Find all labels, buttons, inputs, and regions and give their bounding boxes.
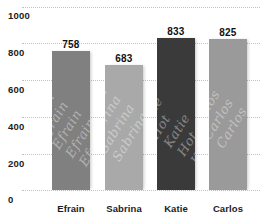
gridline-1000 — [22, 7, 260, 8]
xtick-label-carlos: Carlos — [196, 203, 260, 214]
bar-value-sabrina: 683 — [101, 53, 147, 64]
bar-watermark-katie: Katie Hot Katie Hot Katie Hot Katie Hot … — [157, 38, 195, 190]
bar-efrain[interactable]: Efrain Efrain Efrain Efrain Efrain Efrai… — [52, 51, 90, 190]
ytick-label-600: 600 — [8, 84, 44, 95]
ytick-label-400: 400 — [8, 121, 44, 132]
ytick-label-800: 800 — [8, 47, 44, 58]
gridline-0 — [22, 190, 260, 191]
bar-watermark-carlos: Carlos Carlos Carlos Carlos Carlos Carlo… — [209, 39, 247, 190]
bar-carlos[interactable]: Carlos Carlos Carlos Carlos Carlos Carlo… — [209, 39, 247, 190]
plot-area: 1000 800 600 400 200 0 Efrain Efrain Efr… — [0, 0, 265, 224]
bar-sabrina[interactable]: Sabrina Sabrina Sabrina Sabrina Sabrina … — [105, 65, 143, 190]
bar-value-katie: 833 — [153, 26, 199, 37]
bar-value-carlos: 825 — [205, 27, 251, 38]
ytick-label-200: 200 — [8, 158, 44, 169]
bar-katie[interactable]: Katie Hot Katie Hot Katie Hot Katie Hot … — [157, 38, 195, 190]
bar-value-efrain: 758 — [48, 39, 94, 50]
ytick-label-1000: 1000 — [8, 10, 44, 21]
bar-chart: 1000 800 600 400 200 0 Efrain Efrain Efr… — [0, 0, 265, 224]
bar-watermark-sabrina: Sabrina Sabrina Sabrina Sabrina Sabrina … — [105, 65, 143, 190]
bar-watermark-efrain: Efrain Efrain Efrain Efrain Efrain Efrai… — [52, 51, 90, 190]
